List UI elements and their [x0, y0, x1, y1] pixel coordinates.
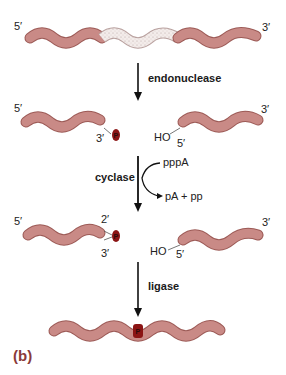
label-5prime-right: 5′ — [177, 137, 185, 149]
label-3prime-left: 3′ — [96, 132, 104, 144]
label-5prime-left: 5′ — [14, 215, 22, 227]
label-5prime-right: 5′ — [176, 248, 184, 260]
label-2prime: 2′ — [101, 213, 109, 225]
arrowhead-icon — [134, 92, 142, 101]
svg-text:P: P — [114, 233, 119, 240]
label-endonuclease: endonuclease — [148, 72, 221, 84]
ligase-arrow: ligase — [134, 262, 179, 317]
cyclase-arrow: cyclase pppA pA + pp — [95, 156, 203, 212]
arrowhead-icon — [134, 203, 142, 212]
label-ho: HO — [154, 131, 171, 143]
cleaved-halves: P 5′ 3′ HO 5′ 3′ — [14, 102, 269, 149]
figure-label: (b) — [13, 347, 32, 364]
label-5prime: 5′ — [14, 20, 22, 32]
mature-trna-strand: P — [54, 324, 220, 338]
label-3prime: 3′ — [262, 21, 270, 33]
svg-text:P: P — [114, 132, 119, 139]
endonuclease-arrow: endonuclease — [134, 63, 221, 101]
label-3prime-right: 3′ — [262, 216, 270, 228]
label-pppa: pppA — [163, 156, 189, 168]
label-3prime: 3′ — [101, 247, 109, 259]
cyclic-phosphate-halves: P 5′ 2′ 3′ HO 5′ 3′ — [14, 213, 270, 260]
label-5prime-left: 5′ — [14, 102, 22, 114]
pre-trna-strand: 5′ 3′ — [14, 20, 270, 43]
pppa-input-curve — [142, 163, 160, 196]
svg-text:P: P — [136, 328, 141, 335]
trna-splicing-diagram: 5′ 3′ endonuclease P 5′ 3′ HO 5′ 3′ cycl… — [0, 0, 286, 375]
label-pa-pp: pA + pp — [165, 190, 203, 202]
label-3prime-right: 3′ — [261, 103, 269, 115]
label-ho: HO — [150, 245, 167, 257]
label-cyclase: cyclase — [95, 171, 135, 183]
small-arrowhead-icon — [157, 193, 163, 199]
arrowhead-icon — [134, 308, 142, 317]
label-ligase: ligase — [148, 280, 179, 292]
